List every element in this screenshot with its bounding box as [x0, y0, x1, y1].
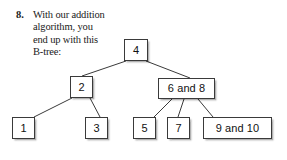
tree-node-label: 6 and 8 [168, 83, 205, 94]
tree-edge-left-leaf1 [34, 98, 72, 117]
tree-node-label: 3 [93, 122, 99, 133]
tree-node-label: 4 [133, 44, 139, 55]
tree-node-leaf1: 1 [12, 117, 35, 139]
tree-node-label: 1 [20, 122, 26, 133]
tree-node-leaf910: 9 and 10 [203, 117, 272, 139]
tree-edge-right-leaf7 [178, 99, 184, 117]
btree-diagram: 426 and 813579 and 10 [0, 0, 287, 160]
tree-edge-right-leaf910 [198, 99, 213, 117]
tree-node-root: 4 [124, 39, 148, 61]
tree-node-right: 6 and 8 [158, 78, 215, 99]
tree-node-leaf7: 7 [167, 117, 190, 139]
tree-node-label: 2 [78, 81, 84, 92]
btree-figure: 8. With our addition algorithm, you end … [0, 0, 287, 160]
tree-edge-right-leaf5 [154, 99, 172, 117]
tree-edge-left-leaf3 [90, 98, 100, 117]
tree-edge-root-left [82, 61, 126, 76]
tree-node-label: 7 [175, 122, 181, 133]
tree-node-label: 5 [141, 122, 147, 133]
tree-node-left: 2 [70, 76, 93, 98]
tree-node-leaf5: 5 [133, 117, 156, 139]
tree-edge-root-right [146, 61, 190, 78]
tree-node-label: 9 and 10 [216, 122, 260, 133]
tree-node-leaf3: 3 [85, 117, 108, 139]
